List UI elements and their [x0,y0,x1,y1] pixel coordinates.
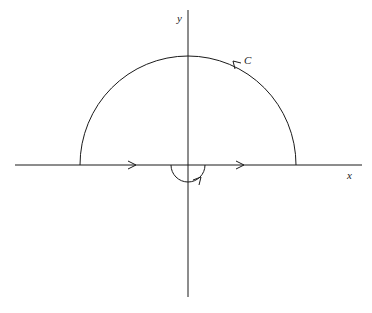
y-axis-label: y [176,12,182,24]
x-axis-label: x [346,169,352,181]
contour-diagram: y x C [0,0,372,313]
contour-label: C [244,54,252,66]
